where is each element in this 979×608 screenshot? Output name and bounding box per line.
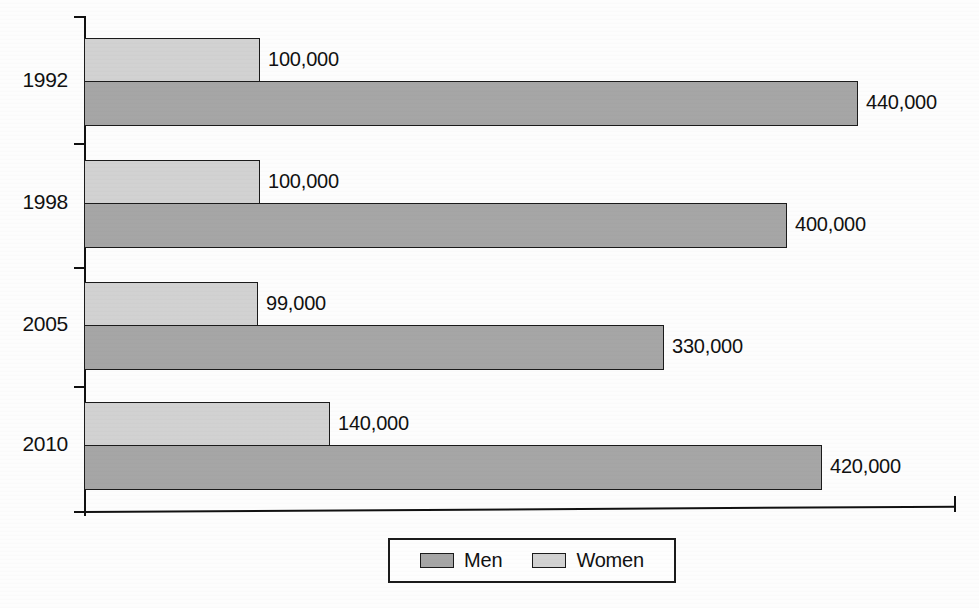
x-axis-end-tick: [954, 496, 956, 512]
bar-women-2005[interactable]: [84, 282, 258, 326]
legend-swatch-women-icon: [532, 553, 566, 568]
bar-chart-screenshot: 1992 100,000 440,000 1998 100,000 400,00…: [0, 0, 979, 608]
bar-men-1992[interactable]: [84, 81, 858, 126]
x-axis-line: [84, 506, 956, 513]
y-tick-2005-2010: [74, 386, 86, 388]
bar-value-men-1992: 440,000: [866, 91, 937, 114]
plot-area: 1992 100,000 440,000 1998 100,000 400,00…: [0, 0, 979, 608]
bar-women-2010[interactable]: [84, 402, 330, 446]
bar-value-women-1992: 100,000: [268, 48, 339, 71]
y-tick-1998-2005: [74, 267, 86, 269]
bar-men-2005[interactable]: [84, 325, 664, 370]
bar-value-men-2005: 330,000: [672, 335, 743, 358]
y-axis-label-1992: 1992: [6, 68, 68, 92]
bar-value-women-2005: 99,000: [266, 292, 326, 315]
y-tick-1992-1998: [74, 143, 86, 145]
y-tick-top: [74, 16, 86, 18]
y-axis-label-2010: 2010: [6, 432, 68, 456]
bar-men-2010[interactable]: [84, 445, 822, 490]
legend-label-women: Women: [576, 549, 644, 572]
chart-legend: Men Women: [388, 538, 676, 583]
bar-value-men-1998: 400,000: [795, 213, 866, 236]
bar-value-women-1998: 100,000: [268, 170, 339, 193]
bar-value-men-2010: 420,000: [830, 455, 901, 478]
legend-entry-women[interactable]: Women: [532, 549, 644, 572]
legend-swatch-men-icon: [420, 553, 454, 568]
bar-value-women-2010: 140,000: [338, 412, 409, 435]
bar-men-1998[interactable]: [84, 203, 787, 248]
legend-entry-men[interactable]: Men: [420, 549, 502, 572]
y-tick-bottom: [74, 511, 86, 513]
bar-women-1998[interactable]: [84, 160, 260, 204]
y-axis-label-1998: 1998: [6, 190, 68, 214]
y-axis-label-2005: 2005: [6, 312, 68, 336]
bar-women-1992[interactable]: [84, 38, 260, 82]
legend-label-men: Men: [464, 549, 502, 572]
